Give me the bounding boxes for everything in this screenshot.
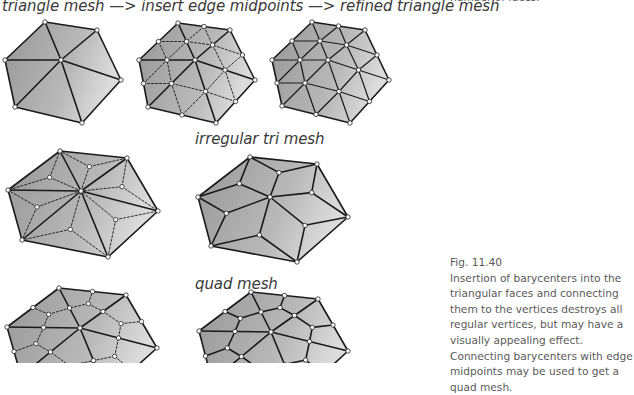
caption-number: Fig. 11.40 xyxy=(450,255,634,271)
barycenter-dashed-mesh xyxy=(6,149,160,259)
caption-fragment: number of faces. xyxy=(450,0,540,6)
quad-mesh xyxy=(197,290,350,363)
quad-mesh-label: quad mesh xyxy=(195,275,278,293)
figure-caption: Fig. 11.40 Insertion of barycenters into… xyxy=(450,255,634,395)
triangle-mesh xyxy=(3,20,123,125)
quad-dashed-mesh xyxy=(5,286,159,363)
midpoint-mesh xyxy=(137,21,257,125)
figure-title: triangle mesh —> insert edge midpoints —… xyxy=(2,0,499,15)
irregular-tri-mesh-label: irregular tri mesh xyxy=(195,130,324,148)
refined-triangle-mesh xyxy=(270,20,391,125)
caption-text: Insertion of barycenters into the triang… xyxy=(450,271,634,395)
irregular-tri-mesh xyxy=(196,155,350,264)
